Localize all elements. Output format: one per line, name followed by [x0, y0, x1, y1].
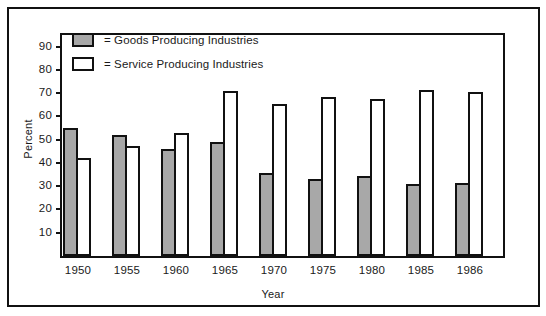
bar-service-1980 — [370, 99, 385, 256]
y-tick-label: 90 — [26, 41, 52, 52]
y-axis-title: Percent — [22, 104, 34, 174]
legend-label: = Service Producing Industries — [104, 58, 263, 70]
bar-goods-1980 — [357, 176, 372, 256]
bar-goods-1960 — [161, 149, 176, 256]
y-tick-label: 80 — [26, 64, 52, 75]
x-tick-label: 1970 — [251, 264, 297, 276]
bar-service-1960 — [174, 133, 189, 256]
bar-goods-1965 — [210, 142, 225, 256]
x-tick-label: 1960 — [153, 264, 199, 276]
x-tick-label: 1965 — [202, 264, 248, 276]
bar-goods-1970 — [259, 173, 274, 256]
bar-service-1955 — [125, 146, 140, 257]
bar-service-1985 — [419, 90, 434, 256]
x-tick-label: 1980 — [349, 264, 395, 276]
legend-label: = Goods Producing Industries — [104, 34, 259, 46]
bar-service-1975 — [321, 97, 336, 256]
bar-goods-1985 — [406, 184, 421, 256]
bar-goods-1950 — [63, 128, 78, 256]
x-tick-label: 1955 — [104, 264, 150, 276]
x-axis-title: Year — [0, 288, 546, 300]
legend-item-service: = Service Producing Industries — [72, 52, 332, 76]
y-tick-label: 30 — [26, 180, 52, 191]
bar-goods-1986 — [455, 183, 470, 256]
bar-service-1950 — [76, 158, 91, 256]
bar-goods-1975 — [308, 179, 323, 256]
x-tick-label: 1986 — [447, 264, 493, 276]
legend-swatch-goods — [72, 33, 94, 47]
legend-swatch-service — [72, 57, 94, 71]
bar-goods-1955 — [112, 135, 127, 256]
y-tick-label: 70 — [26, 87, 52, 98]
x-tick-label: 1975 — [300, 264, 346, 276]
legend-item-goods: = Goods Producing Industries — [72, 28, 332, 52]
bar-service-1970 — [272, 104, 287, 256]
x-tick-label: 1950 — [55, 264, 101, 276]
y-tick-label: 20 — [26, 203, 52, 214]
chart-legend: = Goods Producing Industries= Service Pr… — [72, 28, 332, 76]
bar-service-1986 — [468, 92, 483, 256]
bar-service-1965 — [223, 91, 238, 256]
bar-chart-figure: 102030405060708090 Percent Year = Goods … — [0, 0, 546, 316]
x-tick-label: 1985 — [398, 264, 444, 276]
y-tick-label: 10 — [26, 227, 52, 238]
